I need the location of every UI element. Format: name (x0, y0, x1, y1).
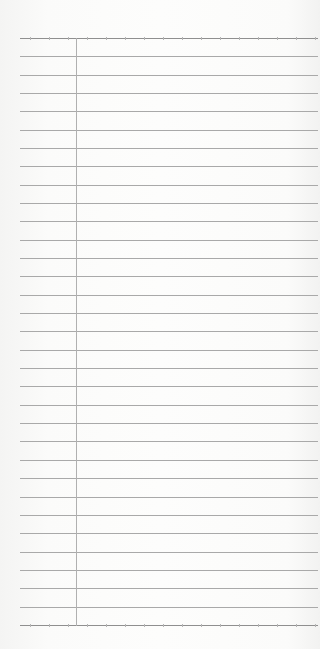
ruled-line (20, 350, 318, 351)
ruled-line (20, 423, 318, 424)
ruled-line (20, 368, 318, 369)
ruler-tick (30, 624, 31, 627)
ruler-tick (201, 37, 202, 40)
ruler-tick (315, 624, 316, 627)
ruled-line (20, 203, 318, 204)
ruled-line (20, 515, 318, 516)
ruled-line (20, 478, 318, 479)
ruler-tick (68, 624, 69, 627)
ruled-line (20, 331, 318, 332)
ruled-line (20, 56, 318, 57)
ruler-tick (239, 624, 240, 627)
ruled-paper-sheet (0, 0, 320, 649)
ruled-line (20, 221, 318, 222)
ruler-tick (296, 624, 297, 627)
ruler-tick (106, 624, 107, 627)
ruler-tick (239, 37, 240, 40)
ruler-tick (182, 37, 183, 40)
ruler-tick (220, 37, 221, 40)
ruled-line (20, 625, 318, 626)
ruled-line (20, 75, 318, 76)
ruler-tick (277, 624, 278, 627)
ruler-tick (201, 624, 202, 627)
ruler-tick (30, 37, 31, 40)
ruler-tick (49, 624, 50, 627)
ruled-line (20, 240, 318, 241)
ruled-line (20, 185, 318, 186)
ruler-tick (258, 37, 259, 40)
ruler-tick (125, 624, 126, 627)
ruled-line (20, 130, 318, 131)
ruler-tick (87, 37, 88, 40)
ruler-tick (144, 624, 145, 627)
ruler-tick (296, 37, 297, 40)
ruler-tick (277, 37, 278, 40)
ruled-line (20, 552, 318, 553)
ruler-tick (163, 37, 164, 40)
ruled-line (20, 93, 318, 94)
ruler-tick (182, 624, 183, 627)
ruled-line (20, 148, 318, 149)
ruled-line (20, 111, 318, 112)
ruler-tick (315, 37, 316, 40)
ruled-line (20, 533, 318, 534)
ruled-line (20, 295, 318, 296)
ruler-tick (106, 37, 107, 40)
ruler-tick (258, 624, 259, 627)
ruled-line (20, 258, 318, 259)
ruled-line (20, 166, 318, 167)
ruler-tick (87, 624, 88, 627)
ruled-line (20, 588, 318, 589)
ruler-tick (163, 624, 164, 627)
ruler-tick (220, 624, 221, 627)
ruled-line (20, 405, 318, 406)
ruled-line (20, 460, 318, 461)
ruled-line (20, 497, 318, 498)
ruler-tick (68, 37, 69, 40)
margin-line (76, 38, 77, 626)
ruled-line (20, 276, 318, 277)
ruled-line (20, 386, 318, 387)
ruled-line (20, 313, 318, 314)
ruled-line (20, 441, 318, 442)
ruled-line (20, 607, 318, 608)
ruler-tick (49, 37, 50, 40)
ruler-tick (125, 37, 126, 40)
ruled-line (20, 38, 318, 39)
ruled-line (20, 570, 318, 571)
ruler-tick (144, 37, 145, 40)
